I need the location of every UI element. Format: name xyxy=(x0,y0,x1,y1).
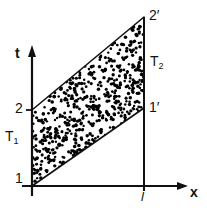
x-axis-label: x xyxy=(190,185,198,199)
temperature-label-T2-base: T xyxy=(150,53,159,69)
x-axis-arrowhead xyxy=(177,182,188,190)
vertex-label-2: 2 xyxy=(15,101,23,115)
spacetime-diagram-figure: t x 1 2 2′ 1′ T1 T2 l xyxy=(0,0,207,216)
t-axis-arrowhead xyxy=(28,45,36,57)
temperature-label-T2-subscript: 2 xyxy=(159,61,164,71)
shaded-region xyxy=(31,17,146,186)
diagram-canvas xyxy=(0,0,207,216)
t-axis-label: t xyxy=(15,46,20,60)
temperature-label-T1-subscript: 1 xyxy=(14,136,19,146)
x-tick-label-l: l xyxy=(141,190,144,203)
vertex-label-1-prime: 1′ xyxy=(149,100,159,114)
temperature-label-T1-base: T xyxy=(5,128,14,144)
x-axis xyxy=(22,182,188,190)
temperature-label-T1: T1 xyxy=(5,129,19,143)
vertex-label-1: 1 xyxy=(15,171,23,185)
temperature-label-T2: T2 xyxy=(150,54,164,68)
vertex-label-2-prime: 2′ xyxy=(149,8,159,22)
